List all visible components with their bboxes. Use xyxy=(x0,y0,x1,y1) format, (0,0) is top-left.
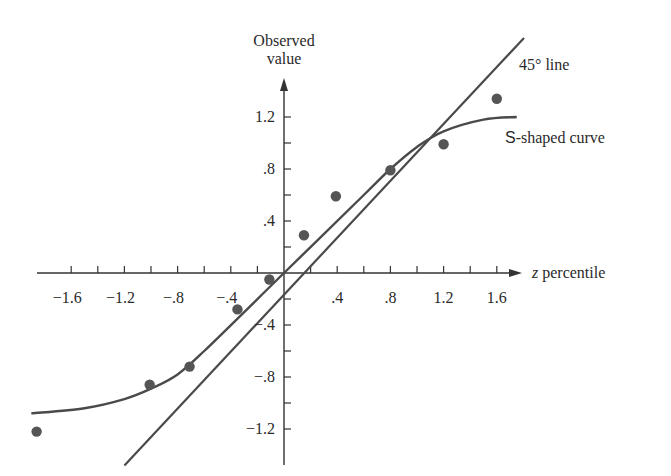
y-tick-label: −.4 xyxy=(235,316,275,334)
data-point xyxy=(144,380,154,390)
data-point xyxy=(492,94,502,104)
qq-plot-chart: Observed value z percentile 45° line S-s… xyxy=(0,0,671,476)
x-tick-label: 1.2 xyxy=(424,289,464,307)
x-tick-label: −.8 xyxy=(154,289,194,307)
y-tick-label: .4 xyxy=(235,212,275,230)
x-tick-label: −1.6 xyxy=(47,289,87,307)
x-tick-label: −1.2 xyxy=(100,289,140,307)
x-tick-label: 1.6 xyxy=(477,289,517,307)
annotation-s-text: -shaped curve xyxy=(516,129,605,146)
y-tick-label: .8 xyxy=(235,160,275,178)
data-point xyxy=(264,274,274,284)
y-tick-label: −1.2 xyxy=(235,420,275,438)
data-point xyxy=(184,361,194,371)
plot-area xyxy=(0,0,671,476)
x-tick-label: .4 xyxy=(317,289,357,307)
x-tick-label: .8 xyxy=(370,289,410,307)
annotation-s-letter: S xyxy=(505,129,516,146)
x-axis-label: z percentile xyxy=(532,264,605,282)
y-tick-label: 1.2 xyxy=(235,108,275,126)
data-point xyxy=(299,230,309,240)
data-point xyxy=(438,139,448,149)
y-axis-label-line1: Observed xyxy=(239,32,329,50)
data-point xyxy=(331,191,341,201)
x-axis-arrow-icon xyxy=(509,269,522,277)
x-tick-label: −.4 xyxy=(207,289,247,307)
data-point xyxy=(31,426,41,436)
axes xyxy=(37,78,522,465)
y-tick-label: −.8 xyxy=(235,368,275,386)
data-point xyxy=(385,165,395,175)
y-axis-arrow-icon xyxy=(280,78,288,91)
y-axis-label-line2: value xyxy=(239,50,329,68)
series-lines xyxy=(31,38,524,465)
annotation-45-degree-line: 45° line xyxy=(519,56,569,74)
forty-five-degree-line xyxy=(124,38,524,465)
annotation-s-shaped-curve: S-shaped curve xyxy=(505,129,605,147)
x-axis-label-text: percentile xyxy=(538,264,605,281)
